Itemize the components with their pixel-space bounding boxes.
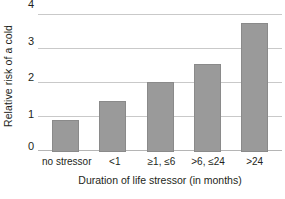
bar-chart: Relative risk of a cold 4 3 2 1 0: [0, 0, 285, 199]
bar-gt-24: [241, 23, 268, 152]
bar-slot: [89, 0, 136, 152]
y-axis-tick-labels: 4 3 2 1 0: [16, 0, 38, 152]
y-tick-label-1: 1: [28, 108, 34, 119]
x-tick-label-no-stressor: no stressor: [42, 154, 91, 172]
y-tick-label-3: 3: [28, 35, 34, 46]
bar-slot: [184, 0, 231, 152]
y-tick-label-2: 2: [28, 72, 34, 83]
bar-no-stressor: [52, 120, 79, 152]
x-tick-label-1-to-6: ≥1, ≤6: [138, 154, 185, 172]
x-tick-label-6-to-24: >6, ≤24: [185, 154, 232, 172]
x-tick-label-lt-1: <1: [91, 154, 138, 172]
bar-6-to-24: [194, 64, 221, 152]
y-tick-label-0: 0: [28, 141, 34, 152]
bar-slot: [42, 0, 89, 152]
y-axis-title-label: Relative risk of a cold: [2, 25, 14, 127]
bar-1-to-6: [147, 82, 174, 152]
bars-layer: [38, 0, 282, 152]
x-tick-label-gt-24: >24: [231, 154, 278, 172]
bar-lt-1: [99, 101, 126, 152]
x-axis-title: Duration of life stressor (in months): [38, 174, 282, 186]
bar-slot: [136, 0, 183, 152]
y-tick-label-4: 4: [28, 0, 34, 10]
x-axis-tick-labels: no stressor <1 ≥1, ≤6 >6, ≤24 >24: [38, 154, 282, 172]
plot-area: [38, 0, 282, 152]
y-axis-title: Relative risk of a cold: [0, 0, 16, 152]
bar-slot: [231, 0, 278, 152]
